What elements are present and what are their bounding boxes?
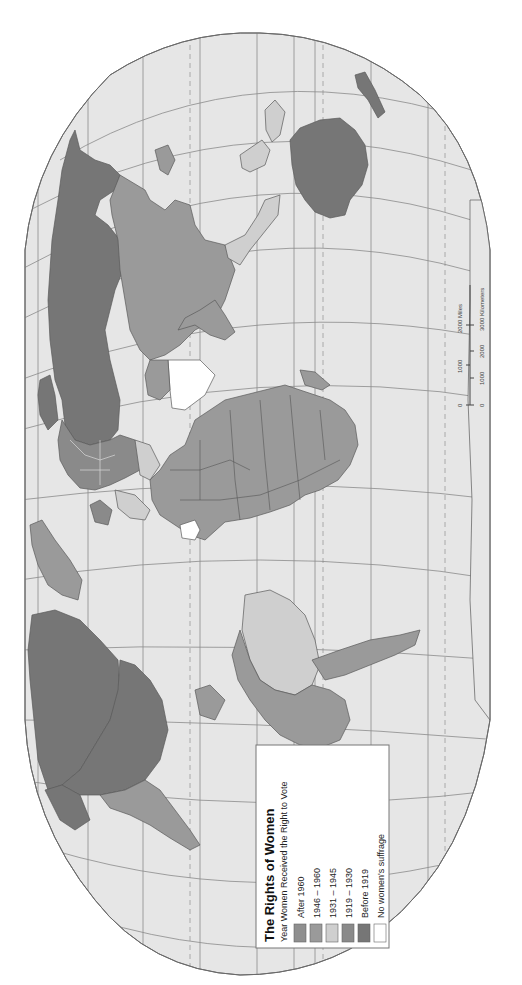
legend-swatch-before-1919 bbox=[358, 924, 370, 942]
legend-swatch-1931-1945 bbox=[326, 924, 338, 942]
scale-km-1000: 1000 bbox=[479, 371, 485, 385]
legend-label-after-1960: After 1960 bbox=[296, 876, 306, 918]
legend-label-before-1919: Before 1919 bbox=[360, 869, 370, 918]
region-iran-iraq bbox=[145, 360, 170, 400]
scale-miles-2000: 2000 Miles bbox=[457, 304, 463, 333]
legend-swatch-after-1960 bbox=[294, 924, 306, 942]
legend-swatch-1946-1960 bbox=[310, 924, 322, 942]
world-map: 0 1000 2000 Miles 0 1000 2000 3000 Kilom… bbox=[0, 0, 522, 985]
legend-label-1946-1960: 1946 – 1960 bbox=[312, 868, 322, 918]
legend-label-1931-1945: 1931 – 1945 bbox=[328, 868, 338, 918]
legend-swatch-1919-1930 bbox=[342, 924, 354, 942]
legend-subtitle: Year Women Received the Right to Vote bbox=[279, 781, 289, 942]
legend-label-no-suffrage: No women's suffrage bbox=[376, 834, 386, 918]
scale-km-3000: 3000 Kilometers bbox=[479, 288, 485, 331]
legend-title: The Rights of Women bbox=[262, 809, 277, 942]
legend-label-1919-1930: 1919 – 1930 bbox=[344, 868, 354, 918]
scale-km-2000: 2000 bbox=[479, 344, 485, 358]
scale-miles-1000: 1000 bbox=[457, 359, 463, 373]
legend: The Rights of Women Year Women Received … bbox=[256, 745, 389, 948]
legend-swatch-no-suffrage bbox=[374, 924, 386, 942]
